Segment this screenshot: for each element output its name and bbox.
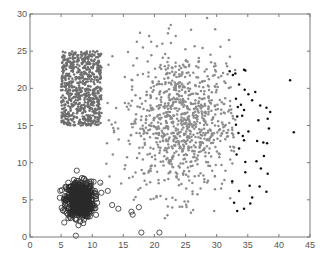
data-point [139,187,142,190]
y-tick-label: 30 [17,9,27,19]
data-point [167,32,170,35]
data-point [156,132,159,135]
data-point [77,106,80,109]
data-point [167,77,170,80]
data-point [149,104,152,107]
data-point [141,124,144,127]
data-point [171,206,174,209]
data-point [79,98,82,101]
data-point [189,93,192,96]
data-point [186,154,189,157]
data-point [206,17,209,20]
data-point [190,135,193,138]
data-point [210,61,213,64]
data-point [85,81,88,84]
data-point [134,196,137,199]
data-point [60,96,63,99]
data-point [200,98,203,101]
data-point [219,140,222,143]
data-point [139,230,144,235]
data-point [138,152,141,155]
data-point [64,79,67,82]
data-point [203,137,206,140]
data-point [223,80,226,83]
data-point [207,161,210,164]
data-point [204,151,207,154]
data-point [87,88,90,91]
data-point [185,187,188,190]
data-point [201,47,204,50]
data-point [196,93,199,96]
data-point [186,111,189,114]
data-point [124,102,127,105]
data-point [78,76,81,79]
data-point [177,140,180,143]
data-point [96,81,99,84]
data-point [152,125,155,128]
data-point [85,68,88,71]
data-point [157,125,160,128]
data-point [194,84,197,87]
data-point [150,122,153,125]
data-point [266,118,269,121]
data-point [258,185,261,188]
data-point [161,129,164,132]
data-point [203,70,206,73]
data-point [208,78,211,81]
data-point [172,166,175,169]
x-tick-label: 30 [212,240,222,250]
x-tick-label: 45 [305,240,315,250]
data-point [79,119,82,122]
data-point [152,82,155,85]
data-point [235,153,238,156]
data-point [175,150,178,153]
data-point [234,72,237,75]
data-point [72,54,75,57]
data-point [89,106,92,109]
data-point [163,127,166,130]
data-point [160,96,163,99]
data-point [196,193,199,196]
data-point [92,73,95,76]
data-point [89,55,92,58]
data-point [189,88,192,91]
data-point [171,67,174,70]
data-points [57,17,295,239]
data-point [93,119,96,122]
data-point [187,200,190,203]
data-point [81,115,84,118]
data-point [168,27,171,30]
data-point [185,72,188,75]
data-point [235,124,238,127]
data-point [214,175,217,178]
data-point [159,141,162,144]
data-point [243,139,246,142]
data-point [93,79,96,82]
data-point [149,198,152,201]
data-point [169,105,172,108]
data-point [181,89,184,92]
data-point [138,147,141,150]
data-point [182,85,185,88]
data-point [175,101,178,104]
data-point [221,132,224,135]
data-point [135,113,138,116]
data-point [150,165,153,168]
data-point [99,81,102,84]
data-point [238,190,241,193]
data-point [158,104,161,107]
data-point [93,83,96,86]
data-point [130,123,133,126]
data-point [114,121,117,124]
data-point [73,86,76,89]
data-point [226,135,229,138]
data-point [168,88,171,91]
data-point [183,139,186,142]
x-tick-label: 15 [118,240,128,250]
data-point [87,85,90,88]
data-point [168,72,171,75]
data-point [88,96,91,99]
data-point [142,108,145,111]
data-point [220,112,223,115]
data-point [62,220,67,225]
